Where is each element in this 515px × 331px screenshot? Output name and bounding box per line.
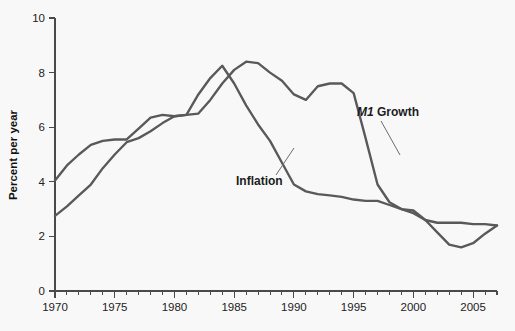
- annotation-leader-line: [381, 121, 400, 155]
- annotation-regular-part: Growth: [374, 105, 419, 119]
- y-tick-label: 4: [39, 176, 46, 188]
- x-tick-label: 2000: [401, 301, 427, 313]
- x-tick-label: 1995: [341, 301, 367, 313]
- series-line-inflation: [55, 66, 497, 226]
- y-axis-tick-labels: 0246810: [32, 12, 45, 297]
- x-tick-label: 1985: [221, 301, 247, 313]
- annotation-leader-line: [276, 148, 294, 175]
- series-line-m1-growth: [55, 62, 497, 248]
- chart-container: 0246810 19701975198019851990199520002005…: [0, 0, 515, 331]
- data-series-group: [55, 62, 497, 248]
- x-axis-ticks: [55, 291, 497, 298]
- line-chart: 0246810 19701975198019851990199520002005…: [0, 0, 515, 331]
- y-axis-title: Percent per year: [7, 109, 19, 200]
- y-axis-ticks: [49, 18, 55, 291]
- annotation-label-inflation: Inflation: [236, 174, 283, 188]
- y-tick-label: 10: [32, 12, 45, 24]
- y-tick-label: 6: [39, 121, 45, 133]
- series-annotations: InflationM1 Growth: [236, 105, 419, 188]
- y-tick-label: 8: [39, 67, 45, 79]
- y-tick-label: 2: [39, 230, 45, 242]
- x-tick-label: 1975: [102, 301, 128, 313]
- x-tick-label: 1970: [42, 301, 68, 313]
- y-tick-label: 0: [39, 285, 45, 297]
- x-tick-label: 2005: [460, 301, 486, 313]
- axes-group: [55, 18, 497, 291]
- annotation-italic-part: M1: [357, 105, 374, 119]
- x-tick-label: 1990: [281, 301, 307, 313]
- x-tick-label: 1980: [162, 301, 188, 313]
- x-axis-tick-labels: 19701975198019851990199520002005: [42, 301, 486, 313]
- annotation-label-m1-growth: M1 Growth: [357, 105, 419, 119]
